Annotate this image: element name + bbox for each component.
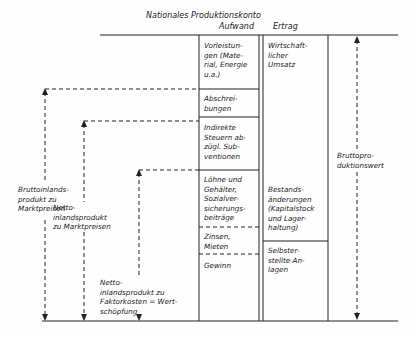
aufwand-abschreibungen: Abschrei- bungen	[204, 94, 238, 113]
label-nip-faktor: Netto- inlandsprodukt zu Faktorkosten = …	[100, 278, 177, 316]
label-nip-markt: Netto- inlandsprodukt zu Marktpreisen	[53, 203, 111, 232]
column-ertrag: Ertrag	[273, 22, 298, 31]
production-account-diagram: Nationales Produktionskonto Aufwand Ertr…	[0, 0, 412, 338]
diagram-title: Nationales Produktionskonto	[146, 11, 261, 20]
ertrag-umsatz: Wirtschaft- licher Umsatz	[268, 41, 307, 70]
label-bruttoproduktionswert: Bruttopro- duktionswert	[337, 151, 384, 170]
aufwand-indirekte-steuern: Indirekte Steuern ab- zügl. Sub- vention…	[204, 123, 246, 161]
aufwand-loehne: Löhne und Gehälter, Sozialver- sicherung…	[204, 175, 246, 223]
aufwand-zinsen: Zinsen, Mieten	[204, 232, 230, 251]
ertrag-bestandsaenderungen: Bestands- änderungen (Kapitalstock und L…	[268, 185, 315, 233]
aufwand-gewinn: Gewinn	[204, 261, 231, 271]
column-aufwand: Aufwand	[219, 22, 254, 31]
ertrag-selbsterstellte-anlagen: Selbster- stellte An- lagen	[268, 246, 305, 275]
aufwand-vorleistungen: Vorleistun- gen (Mate- rial, Energie u.a…	[204, 41, 247, 79]
